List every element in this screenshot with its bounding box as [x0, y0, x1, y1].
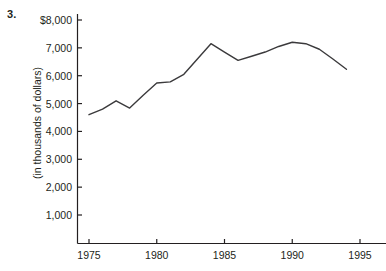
x-tick-label: 1985 [213, 249, 236, 261]
plot-area: 1,0002,0003,0004,0005,0006,0007,000$8,00… [0, 0, 386, 271]
y-tick-label: $8,000 [40, 14, 72, 26]
x-tick-label: 1980 [145, 249, 168, 261]
axis-lines [78, 14, 386, 244]
y-tick-label: 1,000 [46, 209, 72, 221]
data-line-series [89, 42, 346, 114]
y-tick-label: 4,000 [46, 125, 72, 137]
x-tick-marks [89, 239, 360, 244]
y-tick-label: 7,000 [46, 42, 72, 54]
y-tick-label: 2,000 [46, 181, 72, 193]
x-tick-label: 1975 [77, 249, 100, 261]
y-tick-label: 5,000 [46, 98, 72, 110]
x-tick-label: 1990 [281, 249, 304, 261]
chart-figure: 3. (in thousands of dollars) 1,0002,0003… [0, 0, 386, 271]
y-tick-label: 3,000 [46, 153, 72, 165]
x-tick-label: 1995 [348, 249, 371, 261]
y-tick-label: 6,000 [46, 70, 72, 82]
y-tick-marks [78, 20, 83, 215]
